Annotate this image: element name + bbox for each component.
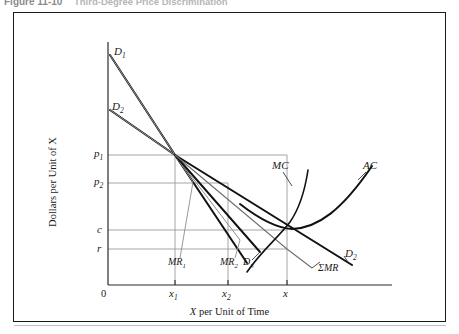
leader-MC xyxy=(283,172,292,186)
y-axis-title: Dollars per Unit of X xyxy=(47,122,58,242)
curve-AC xyxy=(240,166,372,229)
label-AC: AC xyxy=(363,160,377,171)
label-MR1: MR1 xyxy=(168,257,186,270)
label-D1: D1 xyxy=(114,46,126,60)
ytick-p1: p1 xyxy=(94,148,103,162)
label-D2-right: D2 xyxy=(345,248,357,262)
label-sum-MR: ΣMR xyxy=(318,263,338,273)
curve-MC xyxy=(247,170,308,272)
bottom-rule xyxy=(14,325,446,326)
ytick-p2: p2 xyxy=(94,176,103,190)
x-axis-title-text: per Unit of Time xyxy=(196,306,269,317)
ytick-c: c xyxy=(97,224,102,235)
origin-label: 0 xyxy=(101,288,106,299)
xtick-x: x xyxy=(283,288,288,299)
label-MC: MC xyxy=(272,160,289,171)
label-MR2: MR2 xyxy=(220,257,238,270)
curve-SumMR xyxy=(175,155,312,268)
ytick-r: r xyxy=(97,243,101,254)
leader-MR1 xyxy=(180,182,193,258)
label-D2-left: D2 xyxy=(112,101,124,115)
x-axis-title: X per Unit of Time xyxy=(0,306,459,317)
curve-D2 xyxy=(110,110,352,265)
xtick-x1: x1 xyxy=(169,288,178,302)
label-D3: D3 xyxy=(243,257,254,270)
chart-plot-area xyxy=(0,0,459,334)
xtick-x2: x2 xyxy=(222,288,231,302)
axis-ticks xyxy=(175,280,287,285)
figure-page: Figure 11-10 Third-Degree Price Discrimi… xyxy=(0,0,459,334)
curve-D3 xyxy=(175,155,260,252)
